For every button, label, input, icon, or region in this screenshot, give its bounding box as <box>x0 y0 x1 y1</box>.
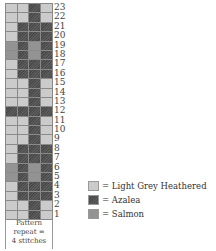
legend-label: = Light Grey Heathered <box>102 181 207 191</box>
stitch-cell <box>18 51 30 60</box>
stitch-cell <box>6 60 18 69</box>
stitch-cell <box>18 13 30 22</box>
stitch-cell <box>18 192 30 201</box>
row-number: 1 <box>54 210 70 219</box>
stitch-cell <box>18 154 30 163</box>
legend-item-salmon: = Salmon <box>88 207 207 221</box>
stitch-cell <box>18 164 30 173</box>
stitch-chart-grid <box>5 3 53 220</box>
stitch-cell <box>41 23 53 32</box>
stitch-cell <box>41 13 53 22</box>
stitch-cell <box>18 145 30 154</box>
stitch-cell <box>6 4 18 13</box>
repeat-line-1: Pattern <box>6 219 52 228</box>
legend-item-azalea: = Azalea <box>88 193 207 207</box>
stitch-cell <box>41 4 53 13</box>
stitch-cell <box>6 13 18 22</box>
stitch-cell <box>18 89 30 98</box>
stitch-cell <box>29 70 41 79</box>
stitch-cell <box>41 42 53 51</box>
stitch-cell <box>29 79 41 88</box>
stitch-cell <box>41 32 53 41</box>
repeat-line-2: repeat = <box>6 228 52 237</box>
stitch-cell <box>18 79 30 88</box>
stitch-cell <box>18 126 30 135</box>
stitch-cell <box>29 107 41 116</box>
stitch-cell <box>41 79 53 88</box>
stitch-cell <box>6 79 18 88</box>
stitch-cell <box>18 70 30 79</box>
stitch-cell <box>6 145 18 154</box>
stitch-cell <box>29 126 41 135</box>
stitch-cell <box>41 126 53 135</box>
stitch-cell <box>6 23 18 32</box>
pattern-repeat-note: Pattern repeat = 4 stitches <box>5 219 53 249</box>
stitch-cell <box>29 13 41 22</box>
stitch-cell <box>18 211 30 219</box>
stitch-cell <box>6 154 18 163</box>
repeat-line-3: 4 stitches <box>6 237 52 246</box>
row-numbers: 2322212019181716151413121110987654321 <box>54 3 70 219</box>
stitch-cell <box>29 154 41 163</box>
stitch-cell <box>6 201 18 210</box>
stitch-cell <box>29 4 41 13</box>
stitch-cell <box>29 117 41 126</box>
stitch-cell <box>41 89 53 98</box>
stitch-cell <box>18 135 30 144</box>
stitch-cell <box>41 51 53 60</box>
stitch-cell <box>18 32 30 41</box>
color-legend: = Light Grey Heathered = Azalea = Salmon <box>88 179 207 221</box>
stitch-cell <box>29 32 41 41</box>
stitch-cell <box>29 23 41 32</box>
stitch-cell <box>6 107 18 116</box>
stitch-cell <box>6 182 18 191</box>
stitch-cell <box>41 60 53 69</box>
stitch-cell <box>18 42 30 51</box>
stitch-cell <box>18 201 30 210</box>
legend-label: = Azalea <box>102 195 140 205</box>
stitch-cell <box>41 154 53 163</box>
light-grey-swatch-icon <box>88 181 99 191</box>
azalea-swatch-icon <box>88 195 99 205</box>
stitch-cell <box>18 23 30 32</box>
stitch-cell <box>6 117 18 126</box>
stitch-cell <box>6 173 18 182</box>
stitch-cell <box>6 126 18 135</box>
stitch-cell <box>6 32 18 41</box>
stitch-cell <box>41 211 53 219</box>
stitch-cell <box>29 89 41 98</box>
legend-item-light-grey: = Light Grey Heathered <box>88 179 207 193</box>
stitch-cell <box>29 164 41 173</box>
stitch-cell <box>29 135 41 144</box>
stitch-cell <box>6 98 18 107</box>
stitch-cell <box>29 201 41 210</box>
stitch-cell <box>29 60 41 69</box>
stitch-cell <box>18 4 30 13</box>
stitch-cell <box>6 89 18 98</box>
stitch-cell <box>6 135 18 144</box>
stitch-cell <box>18 117 30 126</box>
stitch-cell <box>6 164 18 173</box>
stitch-cell <box>41 182 53 191</box>
stitch-cell <box>6 70 18 79</box>
stitch-cell <box>41 70 53 79</box>
stitch-cell <box>41 145 53 154</box>
stitch-cell <box>41 107 53 116</box>
stitch-cell <box>41 164 53 173</box>
stitch-cell <box>41 173 53 182</box>
stitch-cell <box>29 51 41 60</box>
stitch-cell <box>29 98 41 107</box>
stitch-cell <box>41 135 53 144</box>
stitch-cell <box>41 201 53 210</box>
stitch-cell <box>6 51 18 60</box>
stitch-cell <box>29 173 41 182</box>
stitch-cell <box>29 211 41 219</box>
stitch-cell <box>41 192 53 201</box>
stitch-cell <box>18 173 30 182</box>
legend-label: = Salmon <box>102 209 144 219</box>
stitch-cell <box>29 182 41 191</box>
stitch-cell <box>29 145 41 154</box>
stitch-cell <box>18 60 30 69</box>
salmon-swatch-icon <box>88 209 99 219</box>
stitch-cell <box>41 98 53 107</box>
